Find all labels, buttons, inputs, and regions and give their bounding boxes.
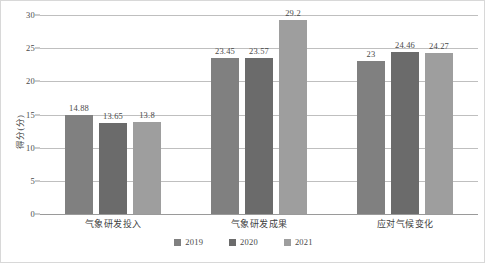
bar-2021-2[interactable] xyxy=(279,20,307,214)
legend-swatch-icon xyxy=(174,239,181,246)
bars-layer: 14.8813.6513.823.4523.5729.22324.4624.27 xyxy=(40,15,478,214)
y-axis-tick-label: 0 xyxy=(31,209,35,219)
bar-value-label: 23.57 xyxy=(249,46,269,56)
bar-slot: 14.88 xyxy=(65,15,93,214)
bar-group: 2324.4624.27 xyxy=(332,15,478,214)
bar-slot: 13.65 xyxy=(99,15,127,214)
y-axis-tick-label: 10 xyxy=(26,143,35,153)
x-axis-category-label-3: 应对气候变化 xyxy=(332,217,478,230)
plot-area: 051015202530 14.8813.6513.823.4523.5729.… xyxy=(40,15,478,214)
bar-slot: 29.2 xyxy=(279,15,307,214)
y-axis-title: 得分(分) xyxy=(13,114,25,149)
y-axis-tick-label: 15 xyxy=(26,110,35,120)
x-axis-category-label-2: 气象研发成果 xyxy=(186,217,332,230)
y-axis-tick-label: 30 xyxy=(26,10,35,20)
bar-group: 23.4523.5729.2 xyxy=(186,15,332,214)
legend-swatch-icon xyxy=(284,239,291,246)
bar-slot: 24.27 xyxy=(425,15,453,214)
bar-slot: 24.46 xyxy=(391,15,419,214)
bar-2020-2[interactable] xyxy=(245,58,273,214)
bar-slot: 23.45 xyxy=(211,15,239,214)
x-axis-categories: 气象研发投入气象研发成果应对气候变化 xyxy=(40,217,478,230)
bar-value-label: 24.46 xyxy=(395,40,415,50)
y-axis-tick-label: 25 xyxy=(26,43,35,53)
y-axis-tick-label: 5 xyxy=(31,176,35,186)
bar-value-label: 14.88 xyxy=(69,103,89,113)
bar-value-label: 23.45 xyxy=(215,46,235,56)
bar-2021-1[interactable] xyxy=(133,122,161,214)
legend-label: 2021 xyxy=(295,237,313,247)
bar-value-label: 29.2 xyxy=(285,8,301,18)
legend-swatch-icon xyxy=(229,239,236,246)
bar-slot: 23.57 xyxy=(245,15,273,214)
bar-value-label: 24.27 xyxy=(429,41,449,51)
bar-slot: 23 xyxy=(357,15,385,214)
y-axis-tick-label: 20 xyxy=(26,76,35,86)
bar-value-label: 13.8 xyxy=(139,110,155,120)
bar-2020-1[interactable] xyxy=(99,123,127,214)
gridline xyxy=(40,214,478,215)
bar-group: 14.8813.6513.8 xyxy=(40,15,186,214)
bar-2019-1[interactable] xyxy=(65,115,93,214)
bar-2019-2[interactable] xyxy=(211,58,239,214)
chart-legend: 201920202021 xyxy=(1,237,485,247)
bar-2019-3[interactable] xyxy=(357,61,385,214)
chart-figure: 得分(分) 051015202530 14.8813.6513.823.4523… xyxy=(0,0,485,263)
bar-value-label: 13.65 xyxy=(103,111,123,121)
legend-label: 2019 xyxy=(185,237,203,247)
bar-slot: 13.8 xyxy=(133,15,161,214)
legend-item-2021[interactable]: 2021 xyxy=(284,237,313,247)
legend-item-2019[interactable]: 2019 xyxy=(174,237,203,247)
legend-label: 2020 xyxy=(240,237,258,247)
x-axis-category-label-1: 气象研发投入 xyxy=(40,217,186,230)
bar-2020-3[interactable] xyxy=(391,52,419,214)
bar-2021-3[interactable] xyxy=(425,53,453,214)
legend-item-2020[interactable]: 2020 xyxy=(229,237,258,247)
bar-value-label: 23 xyxy=(367,49,376,59)
